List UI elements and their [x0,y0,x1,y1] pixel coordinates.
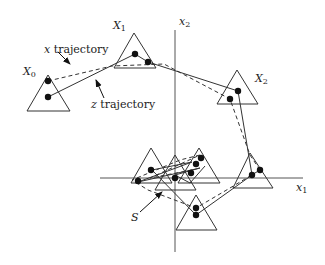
label-s: S [131,212,139,223]
label-x1: X1 [113,20,126,33]
label-x2: X2 [255,73,268,86]
s-pointer [140,192,162,212]
axis-label-x1: x1 [296,182,307,195]
trajectory-points [45,51,263,218]
triangle-x2 [217,70,258,104]
z-trajectory-pointer [96,80,104,98]
diagram-canvas: X0 X1 X2 x2 x1 x trajectory z trajectory… [0,0,325,265]
label-x0: X0 [23,66,36,79]
label-x-trajectory: x trajectory [44,44,109,55]
label-z-trajectory: z trajectory [91,99,155,110]
axis-label-x2: x2 [179,16,190,29]
trajectory-diagram [0,0,325,265]
